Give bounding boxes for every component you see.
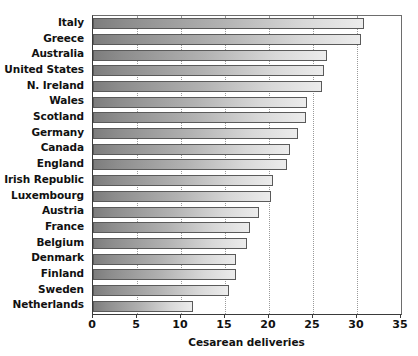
bar-row (93, 204, 401, 220)
bar-row (93, 267, 401, 283)
bar-row (93, 141, 401, 157)
bar (93, 159, 287, 170)
x-axis-title: Cesarean deliveries (92, 336, 401, 348)
bar (93, 144, 290, 155)
bar (93, 238, 247, 249)
category-label: Sweden (38, 282, 84, 298)
bar (93, 18, 364, 29)
x-tick-label: 30 (336, 318, 376, 331)
bar (93, 112, 306, 123)
bar-row (93, 16, 401, 32)
bar (93, 34, 361, 45)
bar-series (93, 16, 401, 314)
bar-row (93, 94, 401, 110)
category-label: United States (4, 62, 84, 78)
bar (93, 97, 307, 108)
x-tick-label: 5 (116, 318, 156, 331)
category-label: Greece (43, 31, 84, 47)
category-label: Germany (31, 125, 84, 141)
category-label: Belgium (36, 235, 84, 251)
bar (93, 81, 322, 92)
x-tick-label: 25 (292, 318, 332, 331)
bar (93, 285, 229, 296)
bar-row (93, 79, 401, 95)
bar-row (93, 126, 401, 142)
cesarean-deliveries-bar-chart: ItalyGreeceAustraliaUnited StatesN. Irel… (0, 0, 418, 356)
bar-row (93, 251, 401, 267)
bar-row (93, 189, 401, 205)
bar (93, 50, 327, 61)
x-tick-label: 0 (72, 318, 112, 331)
bar-row (93, 236, 401, 252)
category-label: Canada (41, 140, 84, 156)
category-label: Wales (49, 93, 84, 109)
category-label: France (45, 219, 84, 235)
category-label: England (37, 156, 84, 172)
category-label: Netherlands (12, 297, 84, 313)
category-label: Irish Republic (4, 172, 84, 188)
category-label: Italy (58, 15, 84, 31)
bar-row (93, 32, 401, 48)
bar-row (93, 110, 401, 126)
category-label: Australia (31, 46, 84, 62)
bar-row (93, 220, 401, 236)
x-axis-tick-labels: 05101520253035 (0, 318, 418, 334)
x-tick-label: 35 (380, 318, 418, 331)
bar (93, 269, 236, 280)
category-label: N. Ireland (27, 78, 84, 94)
x-tick-label: 10 (160, 318, 200, 331)
bar-row (93, 47, 401, 63)
x-tick-label: 20 (248, 318, 288, 331)
bar (93, 65, 324, 76)
bar-row (93, 63, 401, 79)
bar-row (93, 173, 401, 189)
plot-area (92, 15, 402, 315)
category-axis-labels: ItalyGreeceAustraliaUnited StatesN. Irel… (0, 15, 88, 313)
bar (93, 175, 273, 186)
bar (93, 254, 236, 265)
bar (93, 207, 259, 218)
category-label: Austria (42, 203, 84, 219)
category-label: Luxembourg (11, 188, 84, 204)
bar (93, 128, 298, 139)
bar-row (93, 298, 401, 314)
bar (93, 222, 250, 233)
category-label: Denmark (31, 250, 84, 266)
bar-row (93, 283, 401, 299)
bar-row (93, 157, 401, 173)
x-tick-label: 15 (204, 318, 244, 331)
category-label: Finland (41, 266, 84, 282)
category-label: Scotland (33, 109, 84, 125)
bar (93, 301, 193, 312)
bar (93, 191, 271, 202)
